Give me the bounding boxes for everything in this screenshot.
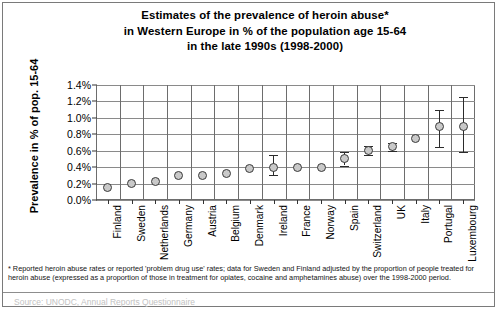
x-tick-mark [345, 200, 346, 204]
y-tick-label: 0.8% [67, 128, 91, 140]
chart-title-line-3: in the late 1990s (1998-2000) [60, 39, 470, 55]
y-tick-mark [92, 200, 97, 201]
x-gridline [451, 85, 452, 200]
data-marker[interactable] [317, 163, 326, 172]
y-axis-title: Prevalence in % of pop. 15-64 [28, 46, 40, 226]
chart-title: Estimates of the prevalence of heroin ab… [60, 8, 470, 55]
x-tick-mark [274, 200, 275, 204]
x-gridline [238, 85, 239, 200]
data-marker[interactable] [388, 142, 397, 151]
x-tick-label: Switzerland [372, 205, 383, 258]
x-tick-label: Denmark [254, 205, 265, 246]
x-gridline [214, 85, 215, 200]
data-marker[interactable] [151, 177, 160, 186]
x-tick-mark [108, 200, 109, 204]
x-gridline [143, 85, 144, 200]
data-marker[interactable] [293, 163, 302, 172]
y-tick-label: 0.6% [67, 145, 91, 157]
data-marker[interactable] [459, 122, 468, 131]
y-gridline [96, 200, 475, 201]
x-gridline [120, 85, 121, 200]
x-gridline [286, 85, 287, 200]
chart-title-line-2: in Western Europe in % of the population… [60, 24, 470, 40]
y-tick-label: 1.4% [67, 79, 91, 91]
chart-title-line-1: Estimates of the prevalence of heroin ab… [60, 8, 470, 24]
x-tick-label: Luxembourg [467, 205, 478, 262]
x-tick-label: Austria [207, 205, 218, 237]
y-tick-mark [92, 183, 97, 184]
chart-page: Estimates of the prevalence of heroin ab… [0, 0, 497, 311]
data-marker[interactable] [198, 171, 207, 180]
x-tick-mark [463, 200, 464, 204]
footnote-divider [3, 292, 494, 293]
x-tick-mark [226, 200, 227, 204]
x-tick-label: Finland [112, 205, 123, 238]
y-tick-label: 0.0% [67, 194, 91, 206]
source-line: Source: UNODC, Annual Reports Questionna… [14, 297, 314, 308]
x-gridline [262, 85, 263, 200]
error-bar-cap-lower [435, 147, 444, 148]
x-tick-label: UK [396, 205, 407, 219]
x-tick-label: Sweden [136, 205, 147, 242]
y-tick-mark [92, 101, 97, 102]
x-tick-mark [439, 200, 440, 204]
x-gridline [357, 85, 358, 200]
x-tick-label: Italy [420, 205, 431, 224]
x-gridline [191, 85, 192, 200]
y-tick-label: 1.2% [67, 95, 91, 107]
x-tick-mark [155, 200, 156, 204]
x-gridline [333, 85, 334, 200]
y-tick-mark [92, 150, 97, 151]
error-bar-cap-upper [340, 152, 349, 153]
footnote: * Reported heroin abuse rates or reporte… [8, 264, 486, 283]
error-bar-cap-lower [459, 152, 468, 153]
x-tick-mark [321, 200, 322, 204]
x-tick-mark [416, 200, 417, 204]
y-tick-label: 1.0% [67, 112, 91, 124]
x-tick-label: Portugal [443, 205, 454, 243]
x-gridline [167, 85, 168, 200]
x-tick-mark [203, 200, 204, 204]
x-tick-mark [132, 200, 133, 204]
x-gridline [309, 85, 310, 200]
error-bar-cap-upper [459, 97, 468, 98]
data-marker[interactable] [269, 163, 278, 172]
x-gridline [380, 85, 381, 200]
x-tick-label: Netherlands [159, 205, 170, 260]
x-tick-mark [297, 200, 298, 204]
x-gridline [428, 85, 429, 200]
x-tick-label: Germany [183, 205, 194, 247]
data-marker[interactable] [435, 122, 444, 131]
x-tick-mark [250, 200, 251, 204]
x-tick-label: Norway [325, 205, 336, 240]
plot-area: 1.4%1.2%1.0%0.8%0.6%0.4%0.2%0.0% Finland… [96, 85, 475, 200]
x-tick-label: Belgium [230, 205, 241, 242]
x-gridline [404, 85, 405, 200]
error-bar-cap-upper [269, 155, 278, 156]
x-tick-label: France [301, 205, 312, 237]
x-tick-label: Spain [349, 205, 360, 231]
data-marker[interactable] [222, 169, 231, 178]
y-tick-mark [92, 167, 97, 168]
y-tick-label: 0.2% [67, 178, 91, 190]
y-tick-mark [92, 134, 97, 135]
x-tick-mark [179, 200, 180, 204]
x-tick-mark [392, 200, 393, 204]
error-bar-cap-upper [435, 110, 444, 111]
error-bar-cap-lower [269, 175, 278, 176]
y-tick-label: 0.4% [67, 161, 91, 173]
error-bar-cap-lower [340, 166, 349, 167]
y-tick-mark [92, 117, 97, 118]
y-tick-mark [92, 85, 97, 86]
x-tick-mark [368, 200, 369, 204]
x-tick-label: Ireland [278, 205, 289, 236]
